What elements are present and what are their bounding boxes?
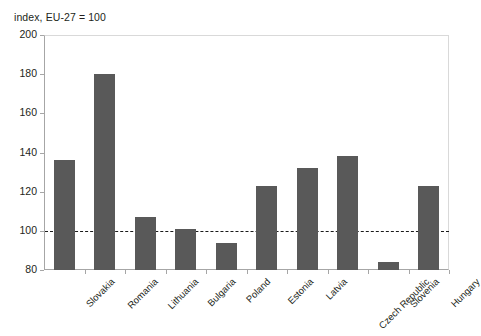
x-tick-label: Hungary (448, 276, 481, 309)
bar (256, 186, 277, 270)
x-tick-label: Slovakia (84, 276, 117, 309)
x-axis-tick (247, 270, 248, 274)
y-axis-tick: 120 (0, 192, 44, 193)
x-axis-tick (166, 270, 167, 274)
bar (54, 160, 75, 270)
y-axis-tick: 140 (0, 153, 44, 154)
x-axis-tick (206, 270, 207, 274)
y-tick-label: 160 (19, 106, 37, 118)
y-tick-label: 180 (19, 67, 37, 79)
y-axis-tick: 180 (0, 74, 44, 75)
y-tick-label: 80 (25, 263, 37, 275)
y-tick-label: 100 (19, 224, 37, 236)
y-tick-mark (40, 270, 44, 271)
y-tick-mark (40, 231, 44, 232)
x-tick-label: Estonia (285, 276, 315, 306)
y-tick-mark (40, 153, 44, 154)
x-axis-tick (287, 270, 288, 274)
bar (175, 229, 196, 270)
bar (418, 186, 439, 270)
x-axis-tick (125, 270, 126, 274)
y-tick-label: 140 (19, 146, 37, 158)
x-tick-label: Lithuania (166, 276, 201, 311)
x-axis-tick (409, 270, 410, 274)
x-tick-label: Romania (125, 276, 160, 311)
y-tick-label: 200 (19, 28, 37, 40)
x-tick-label: Bulgaria (205, 276, 237, 308)
x-tick-label: Poland (244, 276, 273, 305)
x-axis-tick (85, 270, 86, 274)
bar (378, 262, 399, 270)
y-tick-mark (40, 192, 44, 193)
y-axis-tick: 160 (0, 113, 44, 114)
bar (94, 74, 115, 270)
x-axis-tick (368, 270, 369, 274)
x-axis-tick (328, 270, 329, 274)
bar (337, 156, 358, 270)
y-axis-tick: 200 (0, 35, 44, 36)
y-tick-label: 120 (19, 185, 37, 197)
x-axis-tick (449, 270, 450, 274)
y-axis-tick: 80 (0, 270, 44, 271)
y-tick-mark (40, 35, 44, 36)
chart-title: index, EU-27 = 100 (14, 11, 106, 23)
x-tick-label: Czech Republic (376, 276, 431, 331)
y-axis-tick: 100 (0, 231, 44, 232)
y-tick-mark (40, 74, 44, 75)
x-tick-label: Latvia (324, 276, 350, 302)
bar (297, 168, 318, 270)
bar (135, 217, 156, 270)
y-tick-mark (40, 113, 44, 114)
bar (216, 243, 237, 270)
